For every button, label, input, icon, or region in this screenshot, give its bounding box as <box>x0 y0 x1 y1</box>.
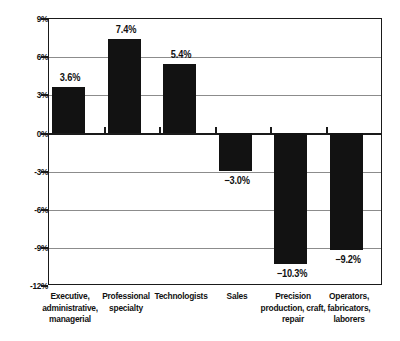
y-axis-tick-mark <box>41 209 48 211</box>
bar-value-label: 5.4% <box>150 48 212 60</box>
bar-value-label: −10.3% <box>261 267 323 279</box>
label-line: laborers <box>315 314 383 326</box>
bar-chart: 9% 6% 3% 0% -3% -6% -9% -12% <box>0 0 400 341</box>
bar-executive-administrative-managerial <box>52 87 85 133</box>
bar-value-label: 3.6% <box>39 71 101 83</box>
x-axis-tick-mark <box>326 127 328 134</box>
x-axis-tick-mark <box>215 127 217 134</box>
y-axis-tick-mark <box>41 247 48 249</box>
label-line: specialty <box>92 303 160 315</box>
bar-precision-production-craft-repair <box>274 133 307 264</box>
bar-operators-fabricators-laborers <box>330 133 363 250</box>
x-axis-category-label-operators: Operators, fabricators, laborers <box>315 291 383 326</box>
bar-technologists <box>163 64 196 133</box>
y-axis-tick-mark <box>41 285 48 287</box>
bar-professional-specialty <box>108 39 141 133</box>
y-axis-tick-mark <box>41 56 48 58</box>
bar-value-label: −9.2% <box>317 253 379 265</box>
bar-value-label: 7.4% <box>95 23 157 35</box>
label-line: managerial <box>36 314 104 326</box>
y-axis-tick-mark <box>41 133 48 135</box>
x-axis-tick-mark <box>270 127 272 134</box>
y-axis-tick-mark <box>41 18 48 20</box>
y-axis-tick-mark <box>41 171 48 173</box>
label-line: Operators, <box>315 291 383 303</box>
gridline <box>49 57 381 58</box>
x-axis-tick-mark <box>104 127 106 134</box>
bar-sales <box>219 133 252 171</box>
bar-value-label: −3.0% <box>206 174 268 186</box>
plot-area <box>48 18 382 285</box>
label-line: fabricators, <box>315 303 383 315</box>
y-axis-tick-mark <box>41 94 48 96</box>
x-axis-tick-mark <box>159 127 161 134</box>
gridline <box>49 95 381 96</box>
